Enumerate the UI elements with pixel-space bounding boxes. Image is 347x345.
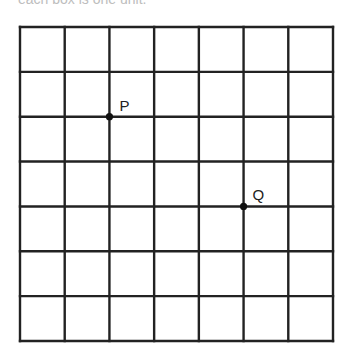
point-q-label: Q	[253, 187, 265, 202]
coordinate-grid	[0, 0, 347, 345]
point-p-marker	[106, 113, 113, 120]
grid-lines	[19, 26, 334, 342]
point-p-label: P	[119, 98, 129, 113]
point-q-marker	[240, 203, 247, 210]
